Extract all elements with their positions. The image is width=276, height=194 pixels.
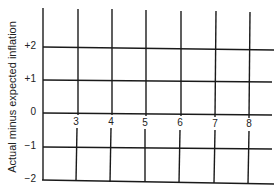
gridline-x-6-lower [179, 130, 180, 183]
gridline-x-7-upper [215, 11, 216, 117]
x-tick-8: 8 [242, 118, 256, 129]
y-tick-plus2: +2 [12, 40, 36, 51]
y-tick-minus2: −2 [12, 173, 36, 184]
gridline-x-4-lower [110, 128, 111, 182]
gridline-x-3-lower [76, 128, 77, 181]
x-tick-4: 4 [104, 116, 118, 127]
gridline-x-8-upper [249, 12, 250, 118]
gridline-y-minus1 [43, 147, 272, 149]
x-tick-3: 3 [69, 116, 83, 127]
x-tick-7: 7 [208, 118, 222, 129]
y-tick-plus1: +1 [12, 73, 36, 84]
y-axis-label: Actual minus expected inflation [6, 12, 20, 182]
grid-svg [0, 0, 276, 194]
y-tick-0: 0 [12, 106, 36, 117]
gridline-x-8-lower [248, 131, 249, 184]
y-tick-minus1: −1 [12, 140, 36, 151]
gridline-x-7-lower [214, 130, 215, 183]
chart-area: Actual minus expected inflation +2 +1 0 … [0, 0, 276, 194]
gridline-y-minus2 [42, 180, 274, 184]
x-tick-6: 6 [173, 117, 187, 128]
x-tick-5: 5 [138, 117, 152, 128]
